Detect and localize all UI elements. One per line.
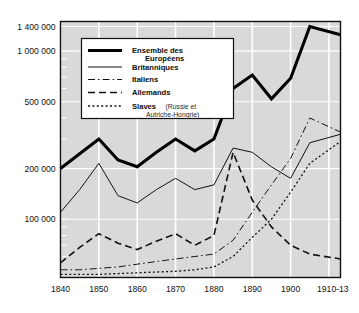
- ytick-label: 200 000: [24, 164, 55, 174]
- ytick-label: 1 400 000: [17, 22, 55, 32]
- ytick-label: 500 000: [24, 97, 55, 107]
- xtick-label: 1890: [243, 284, 262, 294]
- legend-note-4-line2: Autriche-Hongrie): [146, 111, 199, 119]
- xtick-label: 1900: [281, 284, 300, 294]
- ytick-label: 1 000 000: [17, 46, 55, 56]
- legend-label-0-line2: Européens: [145, 54, 184, 63]
- emigration-line-chart: 1 400 0001 000 000500 000200 000100 000 …: [0, 0, 359, 313]
- legend-note-4-line1: (Russie et: [166, 103, 197, 111]
- chart-canvas: 1 400 0001 000 000500 000200 000100 000 …: [0, 0, 359, 313]
- xtick-label: 1880: [204, 284, 223, 294]
- legend-label-2: Italiens: [132, 75, 158, 84]
- legend-label-4: Slaves: [132, 102, 156, 111]
- legend-label-3: Allemands: [132, 88, 170, 97]
- xtick-label: 1860: [128, 284, 147, 294]
- xtick-label: 1850: [89, 284, 108, 294]
- ytick-label: 100 000: [24, 214, 55, 224]
- legend-label-1: Britanniques: [132, 63, 178, 72]
- xtick-label: 1840: [51, 284, 70, 294]
- xtick-label: 1910-13: [317, 284, 349, 294]
- chart-legend: Ensemble desEuropéensBritanniquesItalien…: [82, 39, 234, 120]
- xtick-label: 1870: [166, 284, 185, 294]
